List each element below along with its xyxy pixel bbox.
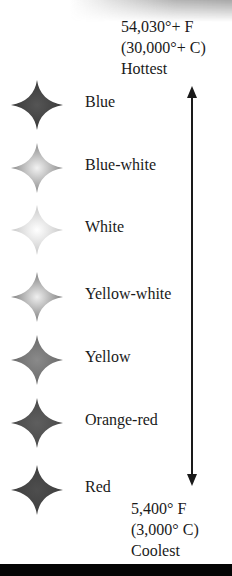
four-point-star-icon (11, 80, 63, 130)
star-row: White (0, 205, 180, 255)
four-point-star-icon (11, 465, 63, 515)
four-point-star-icon (11, 272, 63, 322)
star-color-label: Yellow-white (85, 284, 171, 304)
arrow-down-icon (187, 474, 197, 486)
star-color-label: Blue (85, 92, 115, 112)
star-row: Blue (0, 80, 180, 130)
bottom-border (0, 564, 232, 576)
hottest-celsius: (30,000°+ C) (121, 37, 206, 58)
hottest-label: Hottest (121, 58, 206, 79)
star-color-label: White (85, 217, 124, 237)
coolest-fahrenheit: 5,400° F (131, 498, 199, 519)
four-point-star-icon (11, 143, 63, 193)
star-row: Orange-red (0, 398, 180, 448)
coolest-temperature-label: 5,400° F (3,000° C) Coolest (131, 498, 199, 561)
star-row: Blue-white (0, 143, 180, 193)
star-row: Yellow (0, 335, 180, 385)
temperature-scale-arrow (191, 92, 193, 480)
coolest-celsius: (3,000° C) (131, 519, 199, 540)
four-point-star-icon (11, 205, 63, 255)
star-color-label: Orange-red (85, 410, 158, 430)
star-color-label: Red (85, 477, 111, 497)
star-color-label: Blue-white (85, 155, 156, 175)
four-point-star-icon (11, 335, 63, 385)
star-row: Yellow-white (0, 272, 180, 322)
hottest-temperature-label: 54,030°+ F (30,000°+ C) Hottest (121, 16, 206, 79)
coolest-label: Coolest (131, 540, 199, 561)
hottest-fahrenheit: 54,030°+ F (121, 16, 206, 37)
star-color-label: Yellow (85, 347, 131, 367)
four-point-star-icon (11, 398, 63, 448)
